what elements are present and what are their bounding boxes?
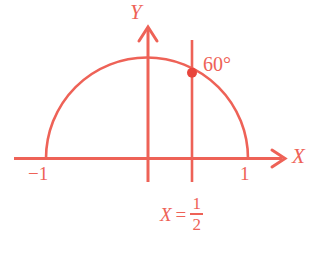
vertical-line-label-variable: X	[160, 205, 172, 224]
x-axis-label: X	[292, 146, 305, 167]
fraction-denominator: 2	[191, 215, 204, 233]
vertical-line-label: X = 1 2	[160, 196, 203, 234]
semicircle-figure: Y X −1 1 60° X = 1 2	[0, 0, 322, 253]
y-axis-label: Y	[130, 2, 142, 23]
vertical-line-label-equals: =	[176, 205, 187, 224]
tick-label-minus-one: −1	[28, 164, 48, 183]
tick-label-one: 1	[240, 164, 250, 183]
fraction-one-half: 1 2	[190, 195, 203, 233]
point-60-degrees	[187, 68, 197, 78]
fraction-numerator: 1	[191, 195, 204, 213]
angle-label-60-degrees: 60°	[203, 54, 231, 74]
